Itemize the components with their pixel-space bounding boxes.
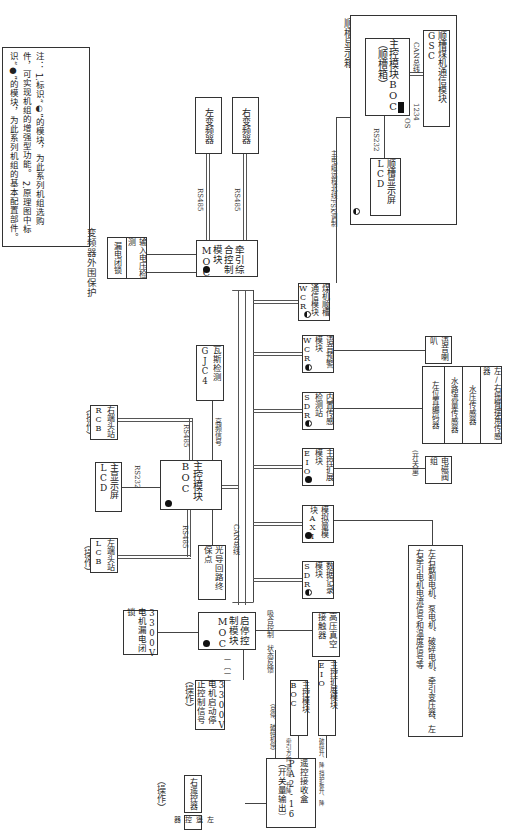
leak-lock-label: 漏电闭锁: [112, 242, 123, 274]
rcb: 右端头站RCB: [90, 405, 118, 440]
receiver-eio-link: [326, 736, 327, 758]
optional-mark-icon: [305, 420, 312, 427]
fsk-link-h: [336, 117, 350, 118]
fiber-loop-point: 光导回路终保点: [198, 545, 226, 600]
rs232-label: RS232: [133, 465, 141, 488]
left-inverter: 左变频器: [195, 97, 222, 154]
bus-link-1: [253, 300, 298, 304]
right-inverter-label: 右变频器: [240, 108, 251, 144]
op-label-remote: （操作）: [155, 776, 168, 812]
hv-contactor: 高压真空接触器: [312, 612, 340, 657]
bus-link-6: [253, 578, 302, 582]
inverter-protect-title: 变频器外围保护: [84, 228, 98, 298]
left-remote: 左遥控器: [184, 815, 202, 830]
left-inverter-label: 左变频器: [203, 108, 214, 144]
optional-mark-icon: [305, 589, 312, 596]
receiver-boc-link: [298, 736, 299, 758]
lcb: 左端头站LCB: [90, 538, 118, 573]
valve-group: 电磁阀组: [425, 456, 452, 484]
receiver-boc-label: 牵引方向 调高、升降: [285, 738, 293, 794]
trough-lcd: 顺槽显示屏LCD: [370, 158, 401, 216]
basic-mark-icon: [203, 640, 210, 647]
close-ctrl-label: 吸合控制: [265, 610, 275, 638]
protect-link-2: [147, 254, 196, 255]
hv-ctrl-signal: 3300V电机启动停止控制信号: [195, 680, 225, 730]
note-box: 注： 1.标识“◐”的模块，为此系列机组选购件，可实现机组的增强型功能。 2.原…: [2, 47, 90, 247]
receiver-moc-label: （总停、破碎机停）: [268, 700, 277, 754]
os-label: OS: [403, 118, 411, 129]
basic-mark-icon: [165, 500, 172, 507]
can-bus: [238, 290, 246, 605]
module-bus: [253, 290, 254, 602]
switch-label: (开关量): [410, 450, 420, 476]
feedback-label: 状态反馈: [265, 645, 275, 673]
left-inverter-link: [206, 154, 210, 240]
rcb-link-h: [118, 418, 193, 422]
right-inverter: 右变频器: [232, 97, 259, 154]
bus-link-4: [253, 465, 302, 469]
bus-link-2: [253, 352, 302, 356]
ctrl-dash: 一〔一一: [222, 656, 232, 684]
lcd-link: [122, 487, 160, 488]
trough-can-label: CAN总线: [411, 42, 421, 73]
bus-link-5: [253, 522, 302, 526]
analog-signal-note: 左右截割电机、泵电机、破碎电机、牵引变压器、左右牵引电机电流信号和温度信号等: [408, 545, 463, 737]
freq-label: 高频信号: [213, 418, 223, 446]
bus-link-3: [253, 409, 302, 413]
boc-can-link: [222, 485, 238, 489]
inverter-protect-box: 漏电闭锁 输入电压检测: [107, 237, 147, 279]
speaker-link: [334, 350, 425, 351]
rs485-top-label: RS485: [182, 424, 190, 447]
fiber-link: [212, 510, 213, 545]
optional-mark-icon: [304, 311, 311, 318]
trough-lcd-label: 顺槽显示屏LCD: [375, 159, 397, 215]
module-wcr-comm: 煤机顺槽通信模块WCR: [298, 283, 330, 321]
main-lcd: 主显示屏LCD: [95, 462, 122, 512]
basic-mark-icon: [203, 266, 210, 273]
hv-leak-lock: 3300V电机漏电闭锁: [123, 610, 158, 655]
remote-eio: 主控扩展模块EIO: [318, 660, 336, 736]
sensor-group: 左/右摇臂摆角传感器 水压传感器 水路流量传感器 左位置编码器: [422, 366, 502, 444]
dip-label: 1234: [412, 103, 420, 121]
right-remote: 右遥控器: [184, 775, 202, 813]
speaker: 语音喇叭: [425, 336, 452, 364]
basic-mark-icon: [305, 476, 312, 483]
remote-input-link: [245, 803, 266, 804]
sensor-link: [334, 408, 422, 409]
trough-gsc-label: 顺槽煤机通信模块GSC: [426, 31, 448, 126]
lcb-link-h: [118, 555, 191, 559]
rs232-link: [384, 116, 385, 158]
input-voltage-label: 输入电压检测: [126, 238, 148, 278]
leak-link: [158, 632, 198, 633]
rs485-bottom-label: RS485: [181, 525, 189, 548]
note-title: 注：: [34, 52, 44, 70]
gas-detector: 瓦斯检测GJC4: [196, 345, 224, 401]
right-inverter-link: [243, 154, 247, 240]
remote-boc: 主控模块BOC: [290, 680, 308, 736]
trough-boc-label: 主控模块BOC（顺槽箱）: [377, 39, 399, 115]
optional-mark-icon: [305, 364, 312, 371]
dip-switch-icon: [398, 102, 404, 113]
rs485-left-label: RS485: [196, 188, 204, 211]
ctrl-link: [243, 650, 244, 680]
rs485-right-label: RS485: [233, 188, 241, 211]
protect-link-1: [147, 272, 196, 273]
can-bus-label: CAN总线: [231, 524, 241, 555]
analog-link-h: [334, 520, 432, 521]
basic-mark-icon: [305, 532, 312, 539]
optional-mark-icon: [353, 208, 360, 215]
receiver-eio-label: 破碎升、降 挡护板升、降: [318, 738, 326, 806]
trough-gsc: 顺槽煤机通信模块GSC: [423, 30, 450, 127]
trough-rs232-label: RS232: [372, 128, 380, 151]
analog-link-v: [432, 520, 433, 545]
fsk-link-v: [336, 117, 337, 283]
